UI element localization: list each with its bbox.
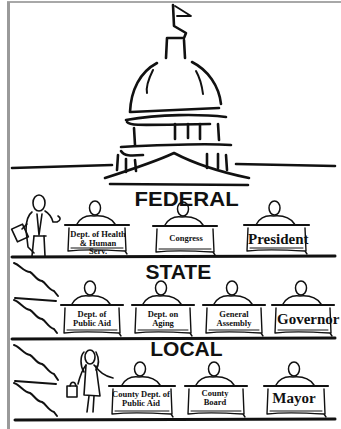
person-shoulders bbox=[276, 377, 314, 385]
desk-county-board: County Board bbox=[189, 389, 241, 406]
person-head bbox=[289, 362, 300, 376]
person-head bbox=[135, 362, 146, 376]
capitol-dome-icon bbox=[12, 5, 335, 185]
desk-president: President bbox=[248, 232, 306, 247]
person-head bbox=[85, 281, 96, 295]
desk-dept-public-aid-state: Dept. of Public Aid bbox=[66, 310, 118, 327]
person-head bbox=[209, 362, 220, 376]
desk-dept-health-human-services: Dept. of Health & Human Serv. bbox=[70, 230, 126, 256]
desk-general-assembly: General Assembly bbox=[208, 310, 260, 327]
federal-floor-line bbox=[12, 256, 335, 257]
desk-dept-on-aging: Dept. on Aging bbox=[137, 310, 189, 327]
person-head bbox=[227, 281, 238, 295]
person-shoulders bbox=[72, 296, 110, 304]
illustration-canvas bbox=[0, 0, 341, 429]
desk-label-line: Public Aid bbox=[112, 399, 170, 408]
person-shoulders bbox=[165, 217, 203, 225]
level-title-local: LOCAL bbox=[150, 338, 222, 361]
desk-label-line: Assembly bbox=[208, 319, 260, 328]
desk-label-line: Congress bbox=[158, 234, 214, 243]
person-shoulders bbox=[143, 296, 181, 304]
desk-label-line: President bbox=[248, 232, 306, 247]
person-head bbox=[90, 201, 101, 215]
desk-governor: Governor bbox=[277, 312, 331, 327]
desk-label-line: Mayor bbox=[268, 391, 320, 406]
local-floor-line bbox=[15, 419, 335, 420]
level-title-state: STATE bbox=[145, 261, 211, 284]
person-shoulders bbox=[196, 377, 234, 385]
person-head bbox=[296, 281, 307, 295]
desk-congress: Congress bbox=[158, 234, 214, 243]
desk-label-line: Public Aid bbox=[66, 319, 118, 328]
person-shoulders bbox=[77, 216, 115, 224]
desk-label-line: & Human Serv. bbox=[70, 239, 126, 256]
person-shoulders bbox=[257, 216, 295, 224]
person-shoulders bbox=[214, 296, 252, 304]
desk-county-dept-public-aid: County Dept. of Public Aid bbox=[112, 390, 170, 407]
woman-with-purse-icon bbox=[67, 350, 113, 412]
person-shoulders bbox=[122, 377, 160, 385]
desk-label-line: Aging bbox=[137, 319, 189, 328]
man-with-briefcase-icon bbox=[12, 195, 61, 256]
person-head bbox=[269, 201, 280, 215]
level-title-federal: FEDERAL bbox=[135, 187, 239, 211]
desk-with-person-icon bbox=[272, 281, 334, 336]
desk-mayor: Mayor bbox=[268, 391, 320, 406]
desk-label-line: Board bbox=[189, 398, 241, 407]
person-shoulders bbox=[283, 296, 321, 304]
government-levels-figure: FEDERAL STATE LOCAL Dept. of Health & Hu… bbox=[0, 0, 341, 429]
desk-label-line: Governor bbox=[277, 312, 331, 327]
